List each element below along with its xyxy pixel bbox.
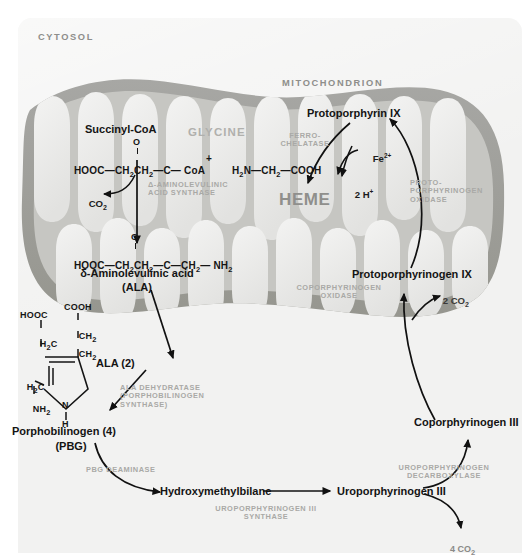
- carbonyl-oxygen-succinyl: O: [133, 137, 140, 147]
- ala-name-line2: (ALA): [52, 281, 222, 293]
- succinyl-coa-label: Succinyl-CoA: [85, 123, 157, 135]
- glycine-formula: H2N—CH2—COOH: [220, 154, 321, 191]
- enzyme-ala-dehydratase: ALA DEHYDRATASE (PORPHOBILINOGEN SYNTHAS…: [120, 384, 204, 409]
- succinyl-formula-text: HOOC—CH2CH2—C— CoA: [74, 165, 205, 176]
- heme-pathway-diagram: CYTOSOL MITOCHONDRION Succinyl-CoA GLYCI…: [0, 0, 531, 555]
- arrow-ala-to-ala2: [151, 290, 173, 358]
- co2-label-1: CO2: [78, 188, 107, 222]
- hydroxymethylbilane-label: Hydroxymethylbilane: [160, 485, 271, 497]
- carbonyl-oxygen-ala: O: [131, 232, 138, 242]
- four-co2-label: 4 CO2: [440, 534, 475, 555]
- pbg-ring-nitrogen: N: [62, 400, 69, 410]
- two-h-label: 2 H+: [344, 177, 373, 201]
- enzyme-pbg-deaminase: PBG DEAMINASE: [86, 466, 156, 474]
- glycine-formula-text: H2N—CH2—COOH: [232, 165, 322, 176]
- ala-name-line1: δ-Aminolevulinic acid: [52, 267, 222, 279]
- arrow-4co2: [424, 494, 461, 528]
- enzyme-proto-oxidase: PROTO- PORPHYRINOGEN OXIDASE: [410, 179, 483, 204]
- pbg-h2c-lower: H2C: [16, 372, 45, 395]
- ala-two-label: ALA (2): [96, 357, 135, 369]
- pbg-name-line2: (PBG): [12, 440, 130, 452]
- protoporphyrinogen-ix-label: Protoporphyrinogen IX: [352, 268, 472, 280]
- arrow-copro-to-protogen: [404, 294, 435, 420]
- two-co2-label: 2 CO2: [432, 285, 469, 308]
- enzyme-uro-decarboxylase: UROPORPHYRINOGEN DECARBOXYLASE: [374, 464, 514, 481]
- plus-sign: +: [206, 153, 212, 164]
- heme-label: HEME: [279, 190, 331, 209]
- mitochondrion-label: MITOCHONDRION: [282, 78, 383, 88]
- protoporphyrin-ix-label: Protoporphyrin IX: [307, 107, 401, 119]
- enzyme-uro-iii-synthase: UROPORPHYRINOGEN III SYNTHASE: [186, 505, 346, 522]
- enzyme-copro-oxidase: COPORPHYRINOGEN OXIDASE: [280, 284, 398, 301]
- pbg-h2c-left: H2C: [29, 329, 58, 352]
- co2-text-1: CO2: [89, 198, 107, 209]
- pbg-cooh-label: COOH: [64, 302, 92, 312]
- pbg-name-line1: Porphobilinogen (4): [12, 425, 116, 437]
- cytosol-label: CYTOSOL: [38, 32, 94, 42]
- pbg-nh2: NH2: [22, 394, 51, 417]
- glycine-label: GLYCINE: [188, 126, 246, 139]
- enzyme-ala-synthase: δ-AMINOLEVULINIC ACID SYNTHASE: [148, 181, 228, 198]
- iron-label: Fe2+: [362, 141, 391, 165]
- enzyme-ferrochelatase: FERRO- CHELATASE: [276, 132, 334, 149]
- pbg-hooc-label: HOOC: [20, 310, 48, 320]
- pbg-ch2-b: CH2: [68, 339, 97, 362]
- coproporphyrinogen-iii-label: Coporphyrinogen III: [414, 416, 519, 428]
- uroporphyrinogen-iii-label: Uroporphyrinogen III: [337, 485, 446, 497]
